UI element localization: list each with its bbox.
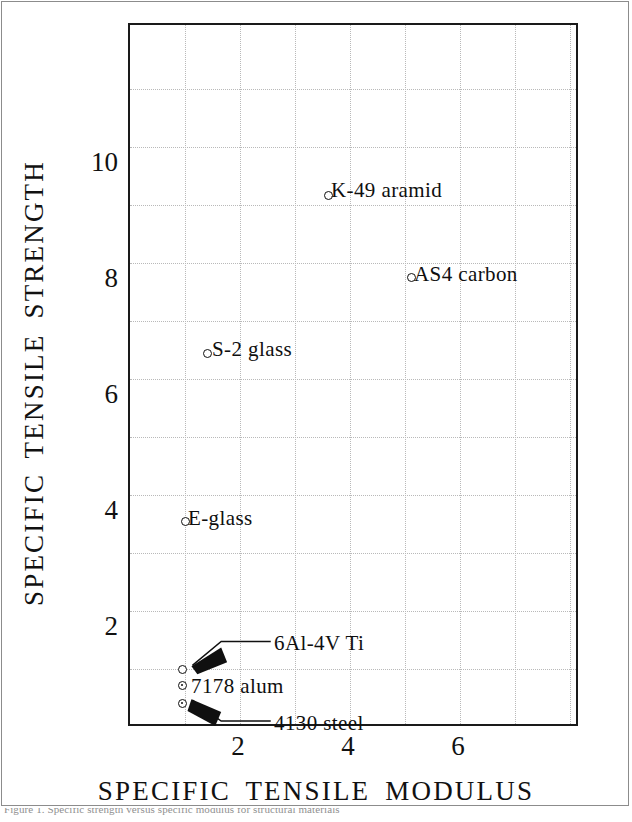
x-axis-title: SPECIFIC TENSILE MODULUS bbox=[0, 776, 632, 807]
x-tick-label-6: 6 bbox=[428, 733, 488, 760]
x-tick-label-4: 4 bbox=[318, 733, 378, 760]
gridline-horizontal bbox=[130, 553, 576, 554]
gridline-vertical bbox=[515, 25, 516, 724]
y-axis-title-container: SPECIFIC TENSILE STRENGTH bbox=[19, 33, 59, 733]
caption-cutoff-text: Figure 1. Specific strength versus speci… bbox=[4, 808, 340, 815]
gridline-vertical bbox=[350, 25, 351, 724]
y-tick-label-2: 2 bbox=[72, 613, 118, 640]
gridline-horizontal bbox=[130, 495, 576, 496]
point-label-7178-alum: 7178 alum bbox=[191, 676, 284, 697]
gridline-vertical bbox=[185, 25, 186, 724]
gridline-vertical bbox=[460, 25, 461, 724]
gridline-horizontal bbox=[130, 205, 576, 206]
gridline-horizontal bbox=[130, 89, 576, 90]
leader-line-titanium bbox=[192, 641, 270, 665]
point-label-6al-4v-ti: 6Al-4V Ti bbox=[274, 633, 364, 654]
x-axis-tick-labels: 2 4 6 bbox=[128, 733, 578, 769]
plot-inner: K-49 aramid AS4 carbon S-2 glass E-glass… bbox=[130, 25, 576, 724]
y-tick-label-6: 6 bbox=[72, 381, 118, 408]
plot-area: K-49 aramid AS4 carbon S-2 glass E-glass… bbox=[128, 23, 578, 726]
gridline-vertical bbox=[295, 25, 296, 724]
data-point-7178-alum[interactable] bbox=[178, 681, 187, 690]
gridline-vertical bbox=[570, 25, 571, 724]
figure-canvas: SPECIFIC TENSILE STRENGTH 10 8 6 4 2 bbox=[0, 0, 632, 822]
leader-line-steel bbox=[192, 700, 270, 721]
point-label-as4-carbon: AS4 carbon bbox=[414, 264, 518, 285]
point-label-s2-glass: S-2 glass bbox=[212, 339, 292, 360]
gridline-vertical bbox=[240, 25, 241, 724]
gridline-horizontal bbox=[130, 669, 576, 670]
y-axis-title: SPECIFIC TENSILE STRENGTH bbox=[19, 33, 50, 733]
leader-arrowhead-steel bbox=[187, 699, 221, 726]
gridline-horizontal bbox=[130, 437, 576, 438]
leader-lines bbox=[130, 25, 576, 724]
data-point-s2-glass[interactable] bbox=[203, 349, 212, 358]
point-label-e-glass: E-glass bbox=[188, 508, 253, 529]
leader-arrowhead-titanium bbox=[191, 647, 227, 674]
gridline-horizontal bbox=[130, 321, 576, 322]
gridline-horizontal bbox=[130, 611, 576, 612]
data-point-6al-4v-ti[interactable] bbox=[178, 665, 187, 674]
caption-strip: Figure 1. Specific strength versus speci… bbox=[0, 808, 632, 822]
data-point-4130-steel[interactable] bbox=[178, 699, 187, 708]
y-tick-label-8: 8 bbox=[72, 265, 118, 292]
gridline-vertical bbox=[405, 25, 406, 724]
y-tick-label-10: 10 bbox=[72, 149, 118, 176]
y-tick-label-4: 4 bbox=[72, 497, 118, 524]
x-tick-label-2: 2 bbox=[208, 733, 268, 760]
y-axis-tick-labels: 10 8 6 4 2 bbox=[62, 23, 118, 726]
gridline-horizontal bbox=[130, 147, 576, 148]
point-label-k49-aramid: K-49 aramid bbox=[331, 180, 442, 201]
gridline-horizontal bbox=[130, 379, 576, 380]
